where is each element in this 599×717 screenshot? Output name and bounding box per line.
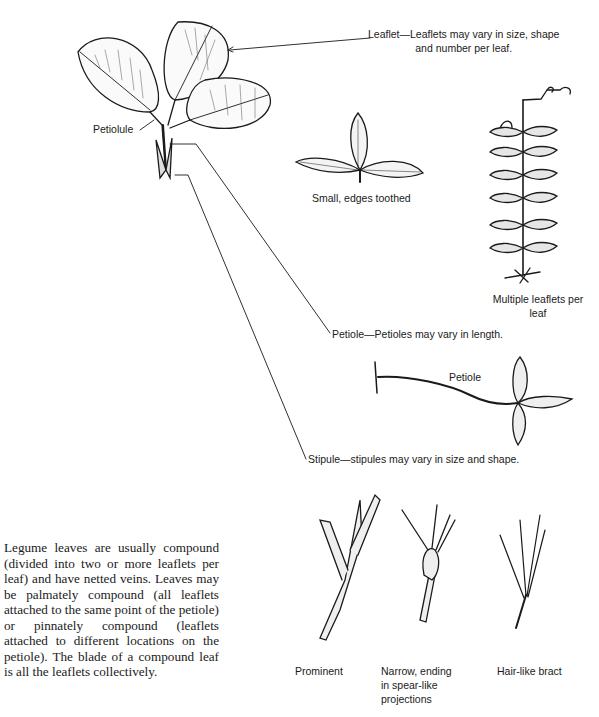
description-paragraph: Legume leaves are usually compound (divi… [4,540,219,680]
stipule-callout-line [175,175,306,459]
stipule-prominent-caption: Prominent [295,664,343,678]
leaflet-callout-line1: Leaflet—Leaflets may vary in size, shape [368,27,559,41]
main-leaf-illustration [78,22,270,178]
petiolule-label: Petiolule [93,122,133,136]
stipule-narrow-caption-line1: Narrow, ending [381,664,452,678]
stipule-hair-like-illustration [500,515,545,628]
stipule-narrow-caption-line2: in spear-like [381,678,452,692]
leaflet-callout-line2: and number per leaf. [368,41,559,55]
multiple-leaflets-caption-line2: leaf [483,306,593,320]
stipule-hair-like-caption: Hair-like bract [497,664,562,678]
stipule-narrow-caption-line3: projections [381,692,452,706]
leaflet-callout-line [230,38,370,50]
small-toothed-leaf-illustration [296,113,423,182]
stipule-prominent-illustration [320,495,380,640]
stipule-narrow-illustration [402,505,455,622]
petiole-callout-label: Petiole—Petioles may vary in length. [332,327,503,341]
multiple-leaflets-caption-line1: Multiple leaflets per [483,292,593,306]
leaflet-callout-label: Leaflet—Leaflets may vary in size, shape… [368,27,559,55]
petiole-callout-line [170,144,330,333]
petiole-example-label: Petiole [449,370,481,384]
pinnate-leaf-illustration [490,87,570,283]
petiolule-callout-line [140,120,154,130]
small-toothed-caption: Small, edges toothed [312,191,411,205]
multiple-leaflets-caption: Multiple leaflets per leaf [483,292,593,320]
stipule-callout-label: Stipule—stipules may vary in size and sh… [308,452,519,466]
stipule-narrow-caption: Narrow, ending in spear-like projections [381,664,452,706]
